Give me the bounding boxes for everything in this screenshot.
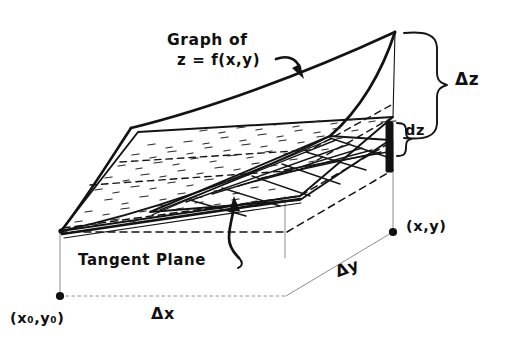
label-graph-equation: z = f(x,y) — [177, 52, 260, 70]
label-point-x0y0: (x₀,y₀) — [10, 310, 64, 327]
hidden-edge-bottom-right — [287, 170, 393, 232]
dz-vertical-bar — [386, 122, 393, 172]
surface-peak-seam — [393, 32, 395, 117]
point-dot-xy — [389, 228, 397, 236]
label-delta-x: Δx — [151, 305, 175, 324]
label-tangent-plane: Tangent Plane — [78, 252, 206, 270]
tangent-plane-front-edge — [62, 199, 300, 234]
tangent-plane-figure: Graph of z = f(x,y) Δz dz (x,y) (x₀,y₀) … — [0, 0, 524, 346]
dz-bar-top-tick — [381, 121, 396, 122]
vertex-dot-near — [58, 228, 63, 233]
label-delta-z: Δz — [455, 69, 479, 89]
tangent-plane — [61, 117, 393, 238]
label-dz: dz — [405, 122, 425, 139]
figure-canvas — [0, 0, 524, 346]
point-dot-x0y0 — [56, 292, 64, 300]
label-graph-of-text: Graph of — [167, 31, 248, 49]
label-graph-of: Graph of z = f(x,y) — [167, 31, 260, 70]
label-point-xy: (x,y) — [406, 218, 447, 235]
